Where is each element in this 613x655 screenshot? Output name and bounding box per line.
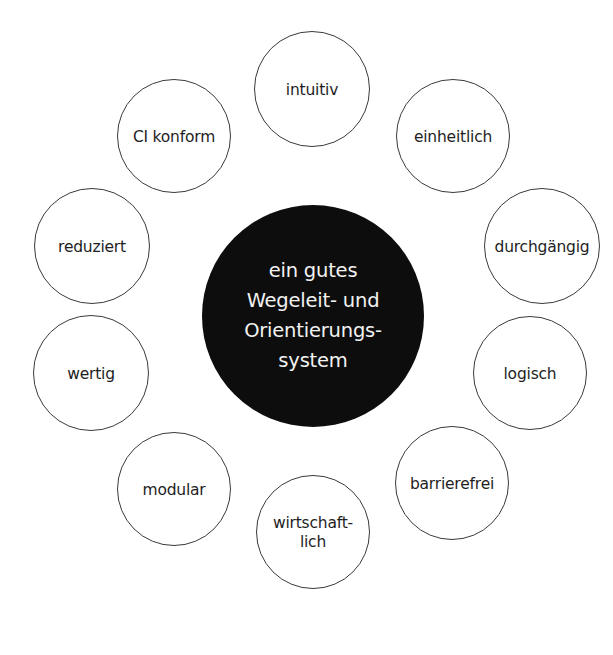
attribute-circle-ci-konform: CI konform xyxy=(117,79,231,193)
attribute-circle-durchgaengig: durchgängig xyxy=(484,188,600,304)
attribute-circle-wertig: wertig xyxy=(33,315,149,431)
attribute-circle-reduziert: reduziert xyxy=(34,188,150,304)
attribute-circle-logisch: logisch xyxy=(473,316,587,430)
attribute-label: intuitiv xyxy=(286,79,338,100)
attribute-label: reduziert xyxy=(58,236,126,257)
central-concept-circle: ein gutes Wegeleit- und Orientierungs- s… xyxy=(202,205,424,427)
attribute-circle-intuitiv: intuitiv xyxy=(254,31,370,147)
attribute-circle-modular: modular xyxy=(117,432,231,546)
attribute-label: CI konform xyxy=(133,126,215,147)
attribute-circle-einheitlich: einheitlich xyxy=(396,79,510,193)
attribute-label: einheitlich xyxy=(414,126,492,147)
attribute-circle-barrierefrei: barrierefrei xyxy=(395,426,509,540)
central-concept-label: ein gutes Wegeleit- und Orientierungs- s… xyxy=(244,256,382,376)
attribute-label: durchgängig xyxy=(495,236,590,257)
attribute-label: barrierefrei xyxy=(410,473,494,494)
attribute-label: wirtschaft- lich xyxy=(273,512,353,552)
attribute-circle-diagram: ein gutes Wegeleit- und Orientierungs- s… xyxy=(0,0,613,655)
attribute-label: logisch xyxy=(504,363,557,384)
attribute-label: wertig xyxy=(67,363,115,384)
attribute-circle-wirtschaftlich: wirtschaft- lich xyxy=(256,475,370,589)
attribute-label: modular xyxy=(142,479,205,500)
